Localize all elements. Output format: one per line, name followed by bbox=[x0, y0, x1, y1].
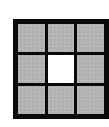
grid-cell-filled bbox=[18, 24, 45, 52]
grid-cell-filled bbox=[77, 55, 104, 83]
grid-cell-filled bbox=[77, 24, 104, 52]
grid-cell-filled bbox=[18, 55, 45, 83]
grid-cell-filled bbox=[77, 86, 104, 114]
grid-cell-empty bbox=[48, 55, 75, 83]
three-by-three-grid bbox=[13, 19, 109, 119]
grid-cell-filled bbox=[48, 86, 75, 114]
grid-cell-filled bbox=[18, 86, 45, 114]
grid-cell-filled bbox=[48, 24, 75, 52]
